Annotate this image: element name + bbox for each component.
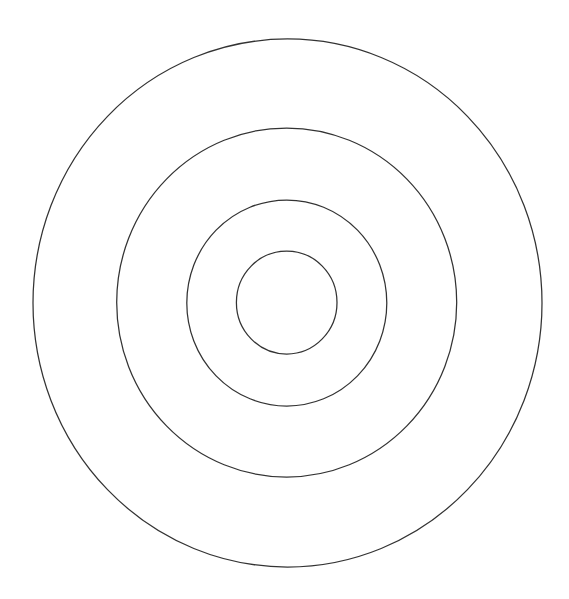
second-ring xyxy=(117,128,457,477)
outer-ring xyxy=(33,39,542,567)
concentric-circles-diagram xyxy=(0,0,569,599)
third-ring xyxy=(187,200,387,406)
inner-ring xyxy=(236,251,337,354)
diagram-canvas xyxy=(0,0,569,599)
